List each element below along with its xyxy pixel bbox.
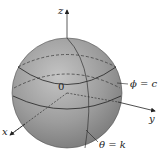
sphere-diagram: z x y 0 ϕ = c θ = k — [0, 0, 166, 156]
x-axis-label: x — [2, 127, 8, 137]
z-axis-label: z — [58, 6, 63, 16]
phi-label: ϕ = c — [130, 79, 157, 89]
y-axis — [118, 102, 155, 111]
origin-label: 0 — [58, 82, 64, 92]
theta-label: θ = k — [99, 140, 126, 150]
x-axis — [10, 124, 25, 135]
y-axis-label: y — [149, 114, 155, 124]
